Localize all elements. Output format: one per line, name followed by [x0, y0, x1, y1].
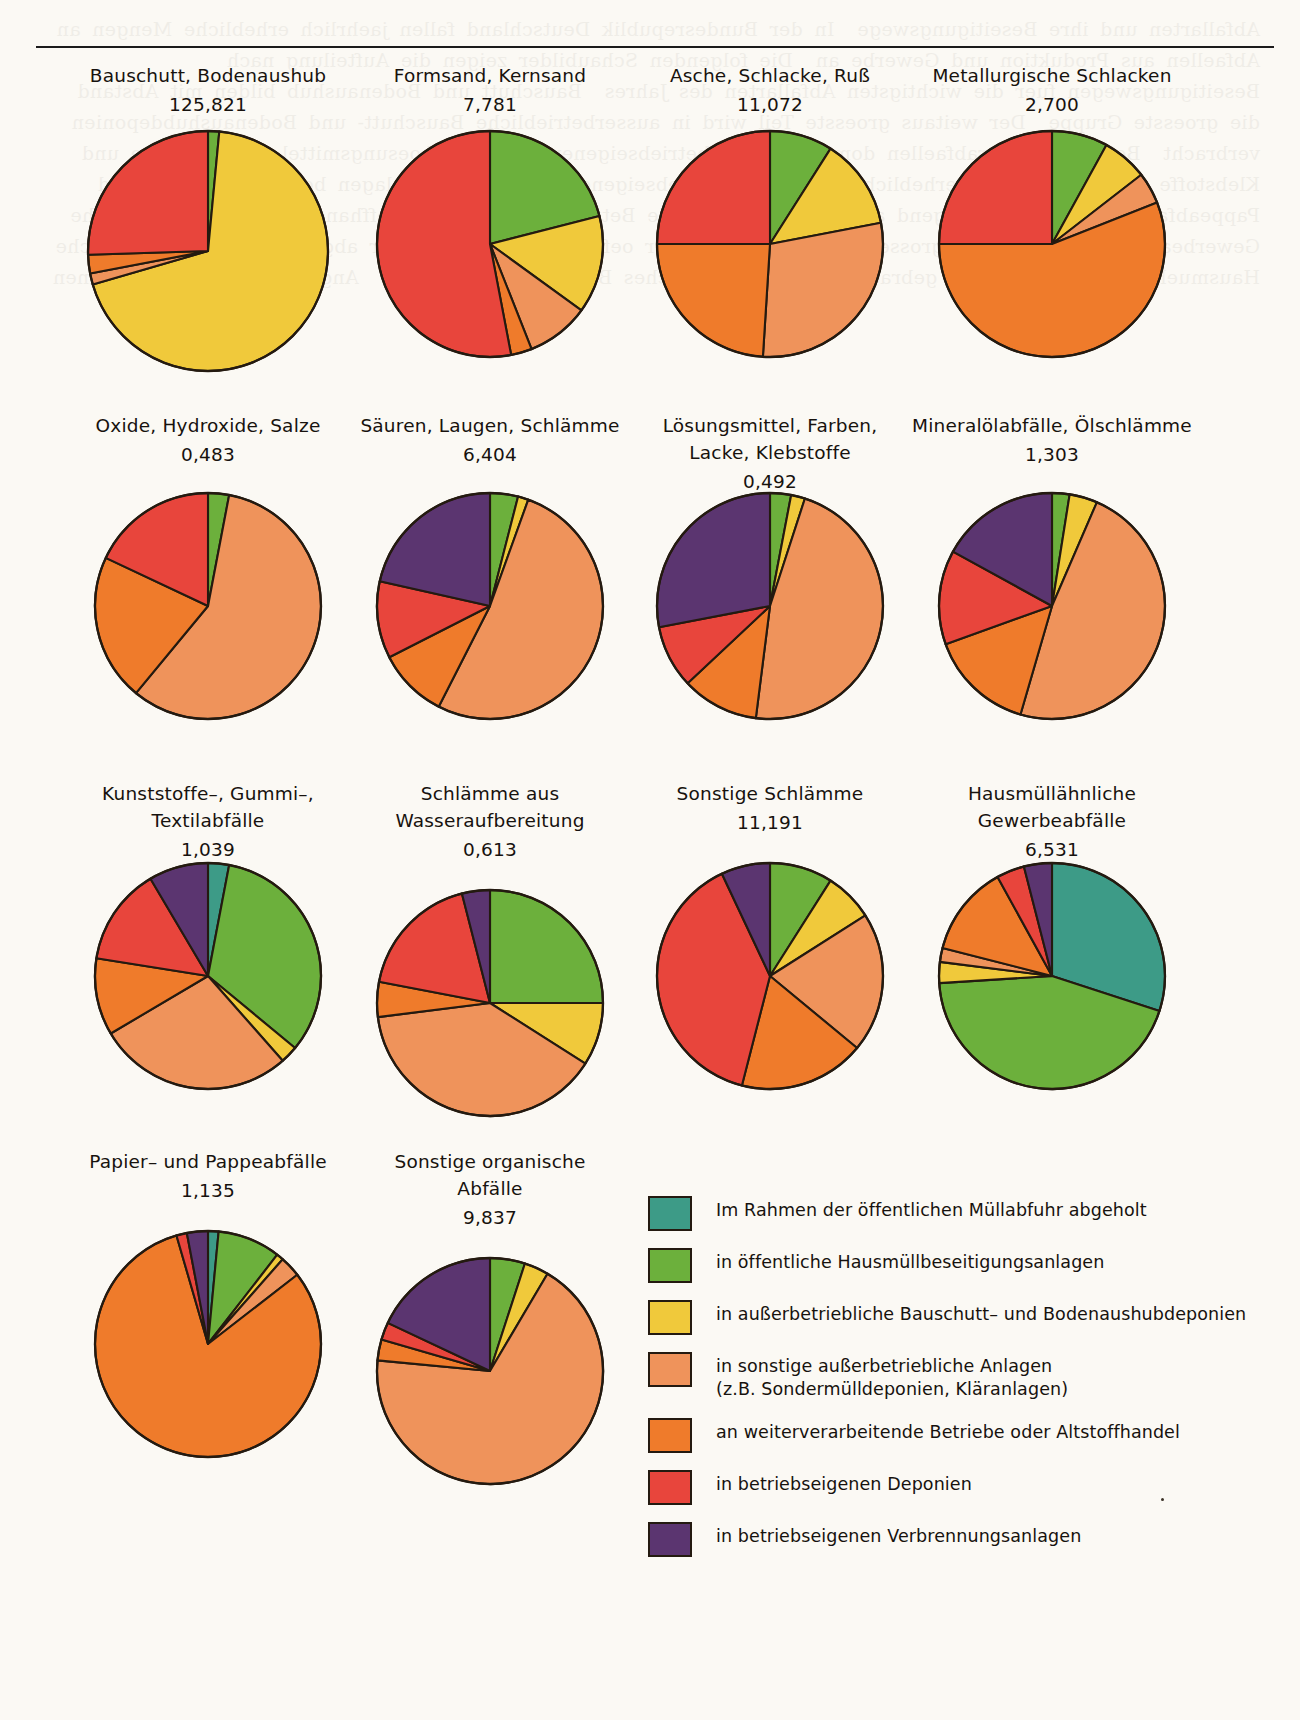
pie-value-saeuren-laugen-schlaemme: 6,404	[360, 444, 620, 465]
pie-panel-sonstige-organische-abfaelle: Sonstige organische Abfälle9,837	[360, 1148, 620, 1487]
pie-title-formsand-kernsand: Formsand, Kernsand	[360, 62, 620, 89]
pie-value-bauschutt-bodenaushub: 125,821	[78, 94, 338, 115]
pie-slice-formsand-kernsand-5	[377, 131, 511, 357]
legend-label-oeffentliche-muellabfuhr: Im Rahmen der öffentlichen Müllabfuhr ab…	[716, 1196, 1147, 1222]
pie-panel-schlaemme-aus-wasseraufbereitung: Schlämme aus Wasseraufbereitung0,613	[360, 780, 620, 1119]
pie-panel-metallurgische-schlacken: Metallurgische Schlacken2,700	[912, 62, 1192, 360]
pie-slice-asche-schlacke-russ-3	[763, 223, 883, 357]
pie-chart-loesungsmittel-farben-lacke-klebstoffe	[654, 490, 886, 722]
pie-panel-loesungsmittel-farben-lacke-klebstoffe: Lösungsmittel, Farben, Lacke, Klebstoffe…	[640, 412, 900, 722]
pie-panel-papier-pappeabfaelle: Papier– und Pappeabfälle1,135	[78, 1148, 338, 1460]
pie-chart-bauschutt-bodenaushub	[85, 128, 331, 374]
pie-value-sonstige-organische-abfaelle: 9,837	[360, 1207, 620, 1228]
pie-value-loesungsmittel-farben-lacke-klebstoffe: 0,492	[640, 471, 900, 492]
pie-panel-oxide-hydroxide-salze: Oxide, Hydroxide, Salze0,483	[78, 412, 338, 722]
pie-title-papier-pappeabfaelle: Papier– und Pappeabfälle	[78, 1148, 338, 1175]
pie-chart-oxide-hydroxide-salze	[92, 490, 324, 722]
pie-title-kunststoffe-gummi-textilabfaelle: Kunststoffe–, Gummi–, Textilabfälle	[78, 780, 338, 834]
pie-value-kunststoffe-gummi-textilabfaelle: 1,039	[78, 839, 338, 860]
legend-swatch-betriebseigene-deponien	[648, 1470, 692, 1505]
pie-slice-asche-schlacke-russ-4	[657, 244, 770, 357]
pie-chart-papier-pappeabfaelle	[92, 1228, 324, 1460]
legend-swatch-oeffentliche-hausmuellanlagen	[648, 1248, 692, 1283]
pie-chart-formsand-kernsand	[374, 128, 606, 360]
pie-chart-hausmuellaehnliche-gewerbeabfaelle	[936, 860, 1168, 1092]
pie-chart-sonstige-schlaemme	[654, 860, 886, 1092]
pie-panel-saeuren-laugen-schlaemme: Säuren, Laugen, Schlämme6,404	[360, 412, 620, 722]
legend-item-betriebseigene-verbrennung: in betriebseigenen Verbrennungsanlagen	[648, 1522, 1248, 1557]
pie-chart-sonstige-organische-abfaelle	[374, 1255, 606, 1487]
chart-sheet: Bauschutt, Bodenaushub125,821Formsand, K…	[0, 0, 1300, 1720]
pie-title-loesungsmittel-farben-lacke-klebstoffe: Lösungsmittel, Farben, Lacke, Klebstoffe	[640, 412, 900, 466]
pie-value-hausmuellaehnliche-gewerbeabfaelle: 6,531	[912, 839, 1192, 860]
pie-value-asche-schlacke-russ: 11,072	[640, 94, 900, 115]
pie-title-sonstige-schlaemme: Sonstige Schlämme	[640, 780, 900, 807]
pie-chart-metallurgische-schlacken	[936, 128, 1168, 360]
legend-item-oeffentliche-hausmuellanlagen: in öffentliche Hausmüllbeseitigungsanlag…	[648, 1248, 1248, 1283]
pie-slice-schlaemme-aus-wasseraufbereitung-1	[490, 890, 603, 1003]
pie-panel-bauschutt-bodenaushub: Bauschutt, Bodenaushub125,821	[78, 62, 338, 374]
pie-value-metallurgische-schlacken: 2,700	[912, 94, 1192, 115]
pie-panel-formsand-kernsand: Formsand, Kernsand7,781	[360, 62, 620, 360]
legend: Im Rahmen der öffentlichen Müllabfuhr ab…	[648, 1196, 1248, 1574]
pie-panel-sonstige-schlaemme: Sonstige Schlämme11,191	[640, 780, 900, 1092]
pie-value-formsand-kernsand: 7,781	[360, 94, 620, 115]
pie-chart-saeuren-laugen-schlaemme	[374, 490, 606, 722]
legend-label-betriebseigene-deponien: in betriebseigenen Deponien	[716, 1470, 972, 1496]
pie-title-metallurgische-schlacken: Metallurgische Schlacken	[912, 62, 1192, 89]
pie-title-bauschutt-bodenaushub: Bauschutt, Bodenaushub	[78, 62, 338, 89]
legend-item-oeffentliche-muellabfuhr: Im Rahmen der öffentlichen Müllabfuhr ab…	[648, 1196, 1248, 1231]
pie-chart-asche-schlacke-russ	[654, 128, 886, 360]
pie-title-oxide-hydroxide-salze: Oxide, Hydroxide, Salze	[78, 412, 338, 439]
pie-title-hausmuellaehnliche-gewerbeabfaelle: Hausmüllähnliche Gewerbeabfälle	[912, 780, 1192, 834]
pie-title-saeuren-laugen-schlaemme: Säuren, Laugen, Schlämme	[360, 412, 620, 439]
pie-chart-schlaemme-aus-wasseraufbereitung	[374, 887, 606, 1119]
legend-item-weiterverarbeitende-betriebe: an weiterverarbeitende Betriebe oder Alt…	[648, 1418, 1248, 1453]
pie-title-asche-schlacke-russ: Asche, Schlacke, Ruß	[640, 62, 900, 89]
legend-swatch-betriebseigene-verbrennung	[648, 1522, 692, 1557]
legend-item-betriebseigene-deponien: in betriebseigenen Deponien	[648, 1470, 1248, 1505]
pie-value-schlaemme-aus-wasseraufbereitung: 0,613	[360, 839, 620, 860]
pie-panel-mineraloelabfaelle-oelschlaemme: Mineralölabfälle, Ölschlämme1,303	[912, 412, 1192, 722]
pie-panel-kunststoffe-gummi-textilabfaelle: Kunststoffe–, Gummi–, Textilabfälle1,039	[78, 780, 338, 1092]
page-mark	[1161, 1498, 1164, 1501]
pie-slice-bauschutt-bodenaushub-5	[88, 131, 208, 255]
pie-chart-kunststoffe-gummi-textilabfaelle	[92, 860, 324, 1092]
legend-label-ausserbetriebliche-deponien: in außerbetriebliche Bauschutt– und Bode…	[716, 1300, 1246, 1326]
legend-swatch-weiterverarbeitende-betriebe	[648, 1418, 692, 1453]
pie-panel-hausmuellaehnliche-gewerbeabfaelle: Hausmüllähnliche Gewerbeabfälle6,531	[912, 780, 1192, 1092]
pie-title-sonstige-organische-abfaelle: Sonstige organische Abfälle	[360, 1148, 620, 1202]
legend-label-oeffentliche-hausmuellanlagen: in öffentliche Hausmüllbeseitigungsanlag…	[716, 1248, 1104, 1274]
legend-swatch-oeffentliche-muellabfuhr	[648, 1196, 692, 1231]
pie-chart-mineraloelabfaelle-oelschlaemme	[936, 490, 1168, 722]
pie-value-mineraloelabfaelle-oelschlaemme: 1,303	[912, 444, 1192, 465]
legend-swatch-ausserbetriebliche-deponien	[648, 1300, 692, 1335]
legend-label-weiterverarbeitende-betriebe: an weiterverarbeitende Betriebe oder Alt…	[716, 1418, 1180, 1444]
pie-value-oxide-hydroxide-salze: 0,483	[78, 444, 338, 465]
pie-value-papier-pappeabfaelle: 1,135	[78, 1180, 338, 1201]
pie-slice-metallurgische-schlacken-5	[939, 131, 1052, 244]
pie-value-sonstige-schlaemme: 11,191	[640, 812, 900, 833]
legend-label-betriebseigene-verbrennung: in betriebseigenen Verbrennungsanlagen	[716, 1522, 1081, 1548]
legend-swatch-sonstige-ausserbetriebliche	[648, 1352, 692, 1387]
legend-item-ausserbetriebliche-deponien: in außerbetriebliche Bauschutt– und Bode…	[648, 1300, 1248, 1335]
pie-slice-loesungsmittel-farben-lacke-klebstoffe-6	[657, 493, 770, 627]
pie-panel-asche-schlacke-russ: Asche, Schlacke, Ruß11,072	[640, 62, 900, 360]
top-rule	[36, 46, 1274, 48]
pie-title-mineraloelabfaelle-oelschlaemme: Mineralölabfälle, Ölschlämme	[912, 412, 1192, 439]
pie-slice-asche-schlacke-russ-5	[657, 131, 770, 244]
legend-label-sonstige-ausserbetriebliche: in sonstige außerbetriebliche Anlagen (z…	[716, 1352, 1068, 1401]
pie-title-schlaemme-aus-wasseraufbereitung: Schlämme aus Wasseraufbereitung	[360, 780, 620, 834]
legend-item-sonstige-ausserbetriebliche: in sonstige außerbetriebliche Anlagen (z…	[648, 1352, 1248, 1401]
